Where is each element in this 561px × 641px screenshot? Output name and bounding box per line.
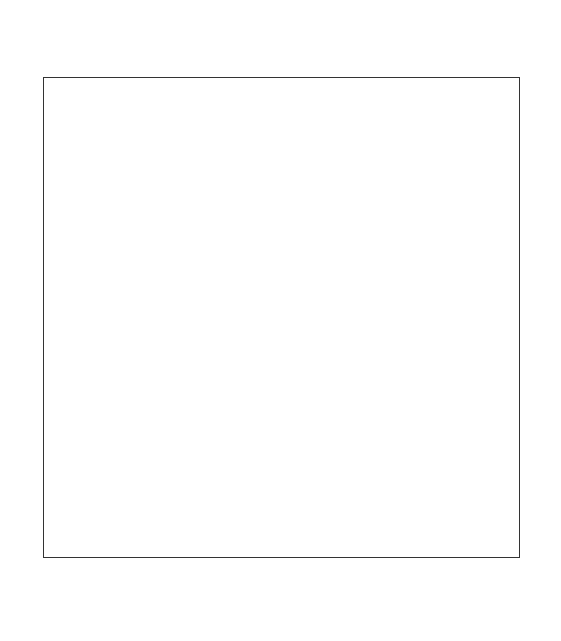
chess-board: [43, 77, 520, 558]
